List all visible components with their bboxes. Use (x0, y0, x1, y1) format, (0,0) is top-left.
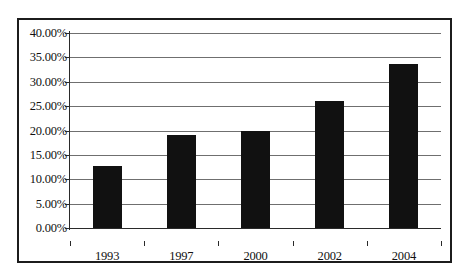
x-tick-mark (441, 241, 442, 246)
chart-figure: 0.00%5.00%10.00%15.00%20.00%25.00%30.00%… (17, 18, 452, 263)
x-tick-mark (144, 241, 145, 246)
x-tick-mark (367, 241, 368, 246)
y-tick-mark (65, 57, 70, 58)
y-tick-mark (65, 179, 70, 180)
x-tick-mark (293, 241, 294, 246)
y-tick-mark (65, 82, 70, 83)
y-tick-label: 10.00% (21, 173, 67, 185)
y-tick-mark (65, 33, 70, 34)
y-tick-mark (65, 131, 70, 132)
x-tick-mark (218, 241, 219, 246)
x-tick-label: 2002 (293, 249, 367, 263)
x-tick-label: 2004 (367, 249, 441, 263)
y-tick-label: 20.00% (21, 125, 67, 137)
y-tick-label: 15.00% (21, 149, 67, 161)
y-tick-label: 35.00% (21, 51, 67, 63)
x-tick-label: 1993 (70, 249, 144, 263)
y-tick-label: 0.00% (21, 222, 67, 234)
x-tick-label: 1997 (144, 249, 218, 263)
y-tick-mark (65, 106, 70, 107)
x-tick-label: 2000 (218, 249, 292, 263)
y-tick-label: 25.00% (21, 100, 67, 112)
y-tick-mark (65, 204, 70, 205)
y-tick-label: 30.00% (21, 76, 67, 88)
y-axis-tick-labels: 0.00%5.00%10.00%15.00%20.00%25.00%30.00%… (19, 20, 67, 261)
y-tick-label: 40.00% (21, 27, 67, 39)
x-tick-mark (70, 241, 71, 246)
x-axis-tick-labels: 19931997200020022004 (70, 33, 441, 265)
y-tick-label: 5.00% (21, 198, 67, 210)
y-tick-mark (65, 155, 70, 156)
y-tick-mark (65, 228, 70, 229)
